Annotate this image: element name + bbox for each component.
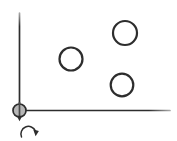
- rotation-arc: [21, 126, 36, 137]
- diagram-svg: [0, 0, 177, 141]
- object-circle-1: [60, 48, 83, 71]
- pivot-origin-marker: [13, 103, 26, 122]
- object-circle-3: [111, 74, 134, 97]
- object-circle-2: [113, 21, 137, 45]
- rotation-arrowhead: [33, 130, 39, 137]
- rotation-arrow-icon: [21, 126, 39, 137]
- pivot-arrowhead-icon: [17, 116, 23, 121]
- sketch-diagram: [0, 0, 177, 141]
